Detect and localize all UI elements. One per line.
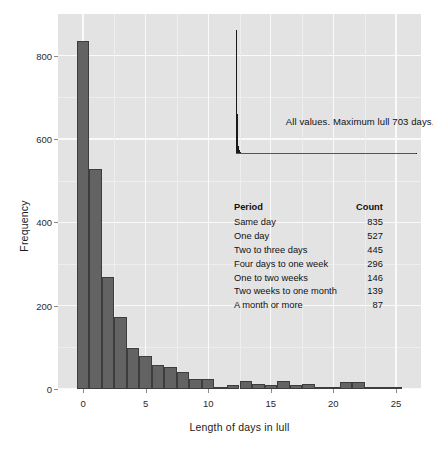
table-cell-count: 527 xyxy=(337,232,383,246)
histogram-bar xyxy=(352,382,365,389)
table-cell-period: One day xyxy=(234,232,337,246)
inset-baseline xyxy=(236,153,416,154)
table-row: One day527 xyxy=(234,232,383,246)
histogram-bar xyxy=(214,387,227,389)
histogram-bar xyxy=(365,387,378,389)
y-axis-tick-label: 0 xyxy=(22,384,52,395)
x-axis-tick-label: 5 xyxy=(126,398,166,409)
table-cell-period: Same day xyxy=(234,218,337,232)
table-cell-period: Two weeks to one month xyxy=(234,287,337,301)
x-axis-tick-mark xyxy=(396,389,397,393)
y-axis-tick-mark xyxy=(54,389,58,390)
table-row: Two to three days445 xyxy=(234,246,383,260)
x-axis-tick-label: 15 xyxy=(251,398,291,409)
histogram-bar xyxy=(240,381,253,389)
histogram-bar xyxy=(265,385,278,389)
x-axis-tick-mark xyxy=(271,389,272,393)
x-axis-tick-mark xyxy=(146,389,147,393)
inset-histogram xyxy=(236,30,416,154)
table-cell-count: 139 xyxy=(337,287,383,301)
x-axis-tick-label: 10 xyxy=(188,398,228,409)
histogram-bar xyxy=(252,384,265,389)
histogram-bar xyxy=(340,382,353,390)
histogram-bar xyxy=(189,379,202,389)
histogram-bar xyxy=(302,384,315,389)
table-cell-count: 87 xyxy=(337,301,383,315)
histogram-bar xyxy=(377,387,390,390)
histogram-bar xyxy=(177,372,190,389)
table-row: Same day835 xyxy=(234,218,383,232)
table-header-row: Period Count xyxy=(234,203,383,218)
x-axis-tick-label: 0 xyxy=(63,398,103,409)
histogram-bar xyxy=(114,317,127,390)
histogram-bar xyxy=(139,356,152,389)
table-row: One to two weeks146 xyxy=(234,274,383,288)
table-cell-period: A month or more xyxy=(234,301,337,315)
histogram-bar xyxy=(77,41,90,389)
table-cell-count: 296 xyxy=(337,260,383,274)
table-body: Same day835One day527Two to three days44… xyxy=(234,218,383,316)
histogram-bar xyxy=(227,385,240,389)
table-header-count: Count xyxy=(337,203,383,218)
table-row: Two weeks to one month139 xyxy=(234,287,383,301)
inset-histogram-bar xyxy=(416,153,417,154)
histogram-bar xyxy=(202,379,215,389)
histogram-bar xyxy=(315,387,328,389)
gridline-vertical-minor xyxy=(177,14,178,389)
x-axis-label: Length of days in lull xyxy=(58,421,421,433)
histogram-bar xyxy=(290,385,303,389)
table-header-period: Period xyxy=(234,203,337,218)
x-axis-tick-mark xyxy=(83,389,84,393)
table-row: A month or more87 xyxy=(234,301,383,315)
table-cell-count: 835 xyxy=(337,218,383,232)
x-axis-tick-mark xyxy=(333,389,334,393)
histogram-bar xyxy=(127,348,140,389)
y-axis-tick-label: 200 xyxy=(22,300,52,311)
table-cell-count: 445 xyxy=(337,246,383,260)
histogram-bar xyxy=(164,367,177,389)
summary-table: Period Count Same day835One day527Two to… xyxy=(234,203,383,315)
histogram-bar xyxy=(390,387,403,389)
histogram-bar xyxy=(89,169,102,389)
gridline-vertical xyxy=(208,14,209,389)
x-axis-tick-label: 20 xyxy=(313,398,353,409)
histogram-figure: Frequency Length of days in lull 0200400… xyxy=(0,0,433,452)
histogram-bar xyxy=(102,277,115,389)
y-axis-tick-label: 600 xyxy=(22,134,52,145)
gridline-vertical xyxy=(145,14,146,389)
x-axis-tick-mark xyxy=(208,389,209,393)
table-row: Four days to one week296 xyxy=(234,260,383,274)
plot-panel: Period Count Same day835One day527Two to… xyxy=(58,14,421,389)
x-axis-tick-label: 25 xyxy=(376,398,416,409)
table-cell-period: Two to three days xyxy=(234,246,337,260)
table-cell-period: Four days to one week xyxy=(234,260,337,274)
table-cell-period: One to two weeks xyxy=(234,274,337,288)
y-axis-tick-label: 400 xyxy=(22,217,52,228)
histogram-bar xyxy=(152,365,165,389)
table-cell-count: 146 xyxy=(337,274,383,288)
histogram-bar xyxy=(277,381,290,389)
chart-annotation: All values. Maximum lull 703 days. xyxy=(286,116,433,127)
histogram-bar xyxy=(327,387,340,389)
y-axis-tick-label: 800 xyxy=(22,50,52,61)
